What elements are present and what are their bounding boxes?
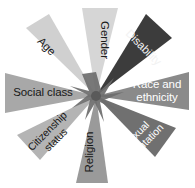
wedge-race-and-ethnicity-label-line1: Race and (133, 78, 181, 90)
wedge-religion-label: Religion (83, 132, 95, 173)
wedge-gender-label: Gender (99, 21, 111, 59)
hub-core (91, 91, 101, 101)
social-identity-wheel-figure: Gender Disability Race and ethnicity Sex… (0, 0, 195, 188)
wedge-social-class-label: Social class (13, 86, 73, 98)
wheel-diagram: Gender Disability Race and ethnicity Sex… (0, 0, 195, 188)
wedge-race-and-ethnicity-label-line2: ethnicity (136, 91, 178, 103)
